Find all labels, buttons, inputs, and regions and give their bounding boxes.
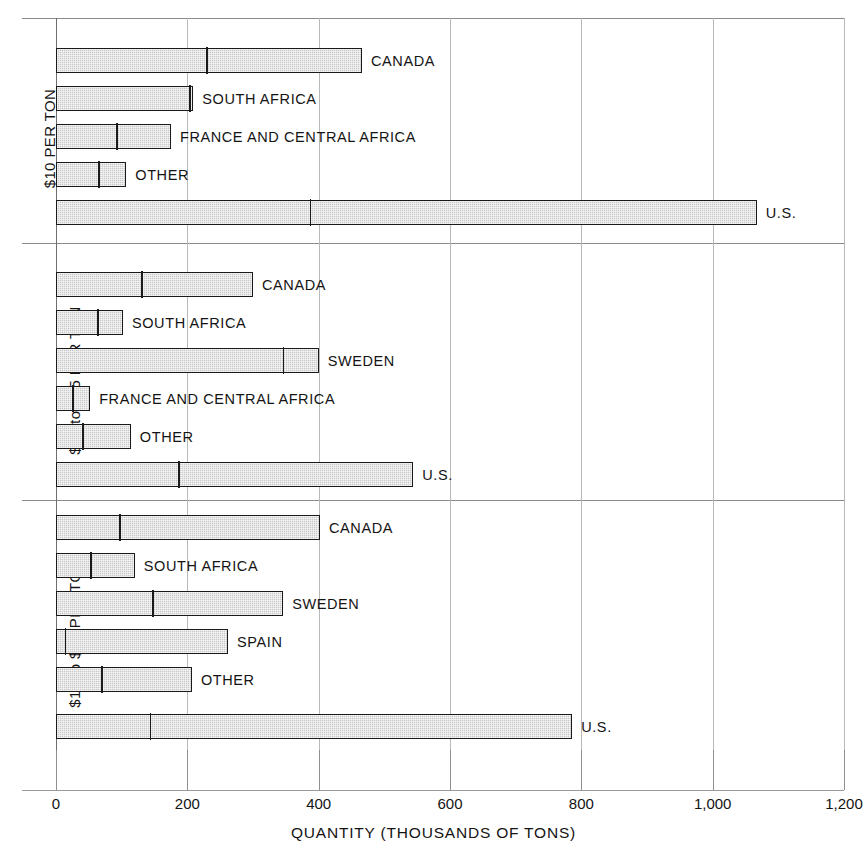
bar-segment-divider [141,271,143,297]
bar-label: SOUTH AFRICA [144,558,258,574]
bar [56,86,193,111]
bar-label: SWEDEN [328,353,395,369]
bar-segment-divider [116,123,118,149]
bar-segment-divider [65,628,67,654]
bar [56,348,319,373]
chart-root: $10 PER TON $10 to $15 PER TON $15 to $3… [0,0,867,857]
bar-label: OTHER [140,429,194,445]
bar [56,714,572,739]
x-tick-label-800: 800 [569,795,594,812]
bar-segment-divider [283,347,285,373]
panel-caption-2: $10 to $15 PER TON [0,372,40,389]
bar-label: SPAIN [237,634,282,650]
x-tick-label-0: 0 [52,795,60,812]
gridline-1200 [844,18,845,750]
bar [56,310,123,335]
bar-segment-divider [98,161,100,187]
x-tick-label-400: 400 [306,795,331,812]
bar-label: OTHER [135,167,189,183]
bar-label: CANADA [371,53,435,69]
x-tick-400 [319,750,320,790]
bar-segment-divider [152,590,154,616]
x-axis-title: QUANTITY (THOUSANDS OF TONS) [0,824,867,842]
bar [56,591,283,616]
bar-segment-divider [206,47,208,73]
panel-rule-2 [22,500,844,501]
bar [56,553,135,578]
bar-label: SWEDEN [292,596,359,612]
panel-rule-top [22,18,844,19]
x-tick-1000 [713,750,714,790]
bar-segment-divider [150,713,152,739]
x-tick-label-1200: 1,200 [825,795,863,812]
bar-segment-divider [119,514,121,540]
bar-segment-divider [310,199,312,225]
x-tick-label-200: 200 [175,795,200,812]
x-axis-line [22,790,844,791]
bar-label: U.S. [581,719,612,735]
bar-label: OTHER [201,672,255,688]
bar-label: FRANCE AND CENTRAL AFRICA [180,129,416,145]
x-tick-800 [581,750,582,790]
bar [56,386,90,411]
bar-segment-divider [97,309,99,335]
bar-segment-divider [90,552,92,578]
bar [56,124,171,149]
gridline-800 [581,18,582,750]
bar-label: U.S. [766,205,797,221]
bar-segment-divider [189,85,191,111]
bar-label: CANADA [262,277,326,293]
bar [56,462,413,487]
bar-label: CANADA [329,520,393,536]
bar [56,162,126,187]
x-tick-1200 [844,750,845,790]
x-tick-600 [450,750,451,790]
bar-label: SOUTH AFRICA [202,91,316,107]
bar-label: SOUTH AFRICA [132,315,246,331]
bar [56,667,192,692]
bar [56,424,131,449]
gridline-600 [450,18,451,750]
bar-label: FRANCE AND CENTRAL AFRICA [99,391,335,407]
x-tick-label-1000: 1,000 [694,795,732,812]
bar-segment-divider [178,461,180,487]
panel-caption-1: $10 PER TON [0,130,40,147]
x-tick-label-600: 600 [438,795,463,812]
bar [56,629,228,654]
panel-caption-3: $15 to $30 PER TON [0,625,40,642]
bar [56,200,757,225]
bar [56,48,362,73]
bar-segment-divider [72,385,74,411]
bar-segment-divider [82,423,84,449]
bar-segment-divider [101,666,103,692]
x-tick-200 [187,750,188,790]
panel-rule-1 [22,243,844,244]
bar-label: U.S. [422,467,453,483]
gridline-1000 [713,18,714,750]
bar [56,515,320,540]
bar [56,272,253,297]
x-tick-0 [56,750,57,790]
